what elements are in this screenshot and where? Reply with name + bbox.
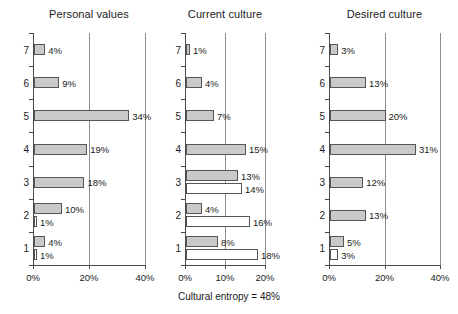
bar-value-label: 19% [90, 144, 109, 155]
plot-area: 0%20%40%76543214%9%34%19%18%10%1%4%1% [33, 33, 145, 265]
bar-value-label: 18% [87, 177, 106, 188]
bar-value-label: 4% [205, 77, 219, 88]
x-tick [185, 265, 186, 269]
bar-value-label: 13% [369, 210, 388, 221]
x-tick-label: 0% [26, 272, 40, 283]
x-tick [329, 265, 330, 269]
y-tick [29, 166, 33, 167]
x-tick-label: 0% [178, 272, 192, 283]
bar-positive [34, 177, 84, 188]
x-tick [265, 265, 266, 269]
bar-positive [186, 170, 238, 181]
y-tick-label: 7 [313, 44, 325, 55]
y-tick [181, 33, 185, 34]
bar-positive [330, 210, 366, 221]
bar-value-label: 1% [40, 249, 54, 260]
bar-value-label: 14% [245, 183, 264, 194]
plot-area: 0%20%40%76543213%13%20%31%12%13%5%3% [329, 33, 440, 265]
bar-value-label: 1% [40, 216, 54, 227]
bar-value-label: 4% [205, 203, 219, 214]
bar-value-label: 31% [419, 144, 438, 155]
y-tick-label: 3 [313, 177, 325, 188]
y-tick [29, 66, 33, 67]
bar-positive [186, 236, 218, 247]
plot-area: 0%10%20%76543211%4%7%15%13%14%4%16%8%18% [185, 33, 265, 265]
bar-value-label: 13% [369, 77, 388, 88]
chart-panel-3: Desired culture0%20%40%76543213%13%20%31… [299, 0, 458, 290]
y-tick [29, 265, 33, 266]
y-tick-label: 6 [169, 77, 181, 88]
y-tick-label: 4 [17, 144, 29, 155]
y-tick [325, 199, 329, 200]
y-tick [29, 232, 33, 233]
bar-value-label: 12% [366, 177, 385, 188]
y-tick [181, 99, 185, 100]
bar-positive [34, 44, 45, 55]
y-tick-label: 6 [313, 77, 325, 88]
bar-positive [330, 144, 416, 155]
chart-panel-1: Personal values0%20%40%76543214%9%34%19%… [3, 0, 175, 290]
bar-limiting [186, 249, 258, 260]
y-tick [29, 199, 33, 200]
y-tick [325, 265, 329, 266]
y-tick [181, 199, 185, 200]
bar-value-label: 4% [48, 236, 62, 247]
y-tick [29, 33, 33, 34]
x-tick-label: 40% [430, 272, 449, 283]
y-tick-label: 6 [17, 77, 29, 88]
y-tick-label: 3 [17, 177, 29, 188]
chart-panel-2: Current culture0%10%20%76543211%4%7%15%1… [155, 0, 295, 290]
bar-limiting [186, 216, 250, 227]
y-tick-label: 1 [169, 243, 181, 254]
bar-value-label: 15% [249, 144, 268, 155]
bar-positive [330, 77, 366, 88]
x-tick-label: 20% [375, 272, 394, 283]
y-tick-label: 1 [17, 243, 29, 254]
y-tick-label: 2 [17, 210, 29, 221]
x-tick [33, 265, 34, 269]
bar-value-label: 13% [241, 170, 260, 181]
y-tick-label: 7 [17, 44, 29, 55]
y-tick-label: 2 [169, 210, 181, 221]
x-tick-label: 0% [322, 272, 336, 283]
bar-positive [34, 236, 45, 247]
x-tick-label: 20% [255, 272, 274, 283]
y-tick [325, 132, 329, 133]
x-tick [440, 265, 441, 269]
y-tick [181, 132, 185, 133]
x-tick-label: 10% [215, 272, 234, 283]
chart-figure: Personal values0%20%40%76543214%9%34%19%… [0, 0, 458, 314]
y-tick-label: 5 [17, 110, 29, 121]
bar-value-label: 8% [221, 236, 235, 247]
bar-positive [330, 110, 386, 121]
bar-positive [330, 236, 344, 247]
bar-positive [330, 44, 338, 55]
bar-value-label: 16% [253, 216, 272, 227]
bar-limiting [186, 183, 242, 194]
x-tick [225, 265, 226, 269]
y-tick [325, 33, 329, 34]
bar-value-label: 20% [389, 110, 408, 121]
bar-value-label: 5% [347, 236, 361, 247]
x-tick [145, 265, 146, 269]
bar-positive [186, 203, 202, 214]
panel-title: Personal values [3, 8, 175, 20]
y-tick [325, 232, 329, 233]
bar-value-label: 7% [217, 110, 231, 121]
panel-title: Desired culture [299, 8, 458, 20]
x-tick-label: 20% [79, 272, 98, 283]
bar-positive [186, 44, 190, 55]
bar-positive [186, 144, 246, 155]
bar-limiting [34, 249, 37, 260]
x-tick-label: 40% [135, 272, 154, 283]
y-tick-label: 5 [169, 110, 181, 121]
y-tick-label: 4 [313, 144, 325, 155]
bar-limiting [330, 249, 338, 260]
y-tick-label: 4 [169, 144, 181, 155]
x-tick [89, 265, 90, 269]
bar-value-label: 3% [341, 249, 355, 260]
bar-value-label: 9% [62, 77, 76, 88]
chart-caption: Cultural entropy = 48% [129, 291, 329, 302]
bar-positive [186, 110, 214, 121]
y-tick [325, 166, 329, 167]
